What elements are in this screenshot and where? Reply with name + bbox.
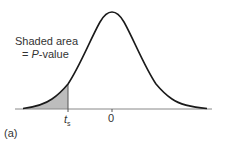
annotation-p-value: = P-value — [22, 48, 69, 60]
tick-label-ts: ts — [64, 113, 71, 130]
p-symbol: P — [31, 48, 38, 60]
normal-curve-figure: Shaded area = P-value ts 0 (a) — [0, 0, 225, 153]
shaded-pvalue-region — [23, 84, 68, 109]
chart-svg — [0, 0, 225, 153]
value-text: -value — [39, 48, 69, 60]
tick-label-zero: 0 — [108, 112, 114, 124]
annotation-shaded-area: Shaded area — [15, 35, 78, 47]
panel-label: (a) — [4, 127, 17, 139]
density-curve — [23, 12, 207, 109]
s-subscript: s — [67, 120, 71, 127]
